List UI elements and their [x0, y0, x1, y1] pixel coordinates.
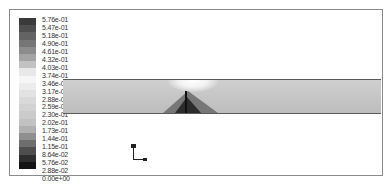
colorbar-label: 4.32e-01 [42, 56, 70, 64]
colorbar-swatch [19, 61, 36, 68]
colorbar-label: 4.61e-01 [42, 48, 70, 56]
colorbar-swatch [19, 97, 36, 104]
colorbar-label: 2.02e-01 [42, 119, 70, 127]
colorbar-swatch [19, 111, 36, 118]
colorbar-label: 0.00e+00 [42, 175, 70, 183]
x-axis-arrow [143, 158, 147, 161]
colorbar-label: 1.44e-01 [42, 135, 70, 143]
colorbar-swatch [19, 68, 36, 75]
colorbar-label: 2.88e-02 [42, 167, 70, 175]
colorbar-label: 8.64e-02 [42, 151, 70, 159]
colorbar-label: 4.90e-01 [42, 40, 70, 48]
colorbar-label: 4.03e-01 [42, 64, 70, 72]
colorbar-label: 5.18e-01 [42, 32, 70, 40]
wake-core [175, 97, 201, 113]
colorbar-swatch [19, 54, 36, 61]
colorbar-label: 5.76e-01 [42, 16, 70, 24]
colorbar-swatch [19, 119, 36, 126]
y-axis-line [133, 146, 134, 160]
colorbar-swatch [19, 162, 36, 169]
y-axis-arrow [131, 144, 136, 148]
colorbar-swatch [19, 155, 36, 162]
colorbar-swatch [19, 140, 36, 147]
colorbar-swatch [19, 76, 36, 83]
colorbar-swatch [19, 104, 36, 111]
colorbar-swatch [19, 126, 36, 133]
colorbar-swatch [19, 133, 36, 140]
colorbar-swatch [19, 18, 36, 25]
colorbar-label: 5.47e-01 [42, 24, 70, 32]
colorbar-swatch [19, 40, 36, 47]
colorbar-swatch [19, 25, 36, 32]
colorbar-swatch [19, 47, 36, 54]
colorbar-label: 5.76e-02 [42, 159, 70, 167]
colorbar-label: 1.73e-01 [42, 127, 70, 135]
colorbar [19, 18, 36, 169]
colorbar-swatch [19, 147, 36, 154]
colorbar-label: 1.15e-01 [42, 143, 70, 151]
colorbar-swatch [19, 83, 36, 90]
channel-domain [63, 79, 381, 114]
xy-axes-icon [131, 146, 147, 162]
colorbar-swatch [19, 32, 36, 39]
vertical-plate [185, 91, 187, 113]
colorbar-swatch [19, 90, 36, 97]
